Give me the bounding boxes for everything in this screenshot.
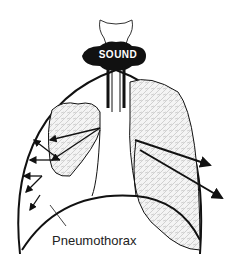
sound-label: SOUND (93, 49, 143, 60)
larynx-icon (100, 20, 133, 44)
collapsed-lung (48, 103, 100, 176)
pneumothorax-label: Pneumothorax (52, 233, 137, 248)
